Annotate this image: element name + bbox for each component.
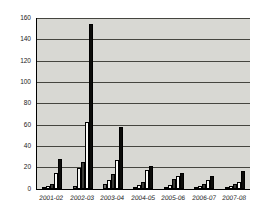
- x-axis-category-label: 2007-08: [219, 194, 250, 201]
- bar-group: [98, 18, 128, 189]
- y-axis-tick-label: 100: [0, 78, 31, 86]
- bar-group: [189, 18, 219, 189]
- bar: [149, 166, 153, 189]
- bar: [89, 24, 93, 189]
- y-axis: 020406080100120140160: [0, 0, 31, 223]
- bar: [210, 176, 214, 189]
- y-axis-tick-label: 80: [0, 99, 31, 107]
- x-axis: 2001-022002-032003-042004-052005-062006-…: [36, 194, 250, 201]
- x-axis-category-label: 2001-02: [36, 194, 67, 201]
- bar: [58, 159, 62, 189]
- x-axis-category-label: 2004-05: [127, 194, 158, 201]
- x-axis-category-label: 2003-04: [97, 194, 128, 201]
- x-axis-category-label: 2006-07: [189, 194, 220, 201]
- y-axis-tick-label: 40: [0, 142, 31, 150]
- y-axis-tick-label: 20: [0, 163, 31, 171]
- bar-group: [220, 18, 250, 189]
- bar-chart: 020406080100120140160 2001-022002-032003…: [0, 0, 274, 223]
- bar-group: [67, 18, 97, 189]
- y-axis-tick-label: 60: [0, 121, 31, 129]
- y-axis-tick-label: 120: [0, 57, 31, 65]
- y-axis-tick-label: 160: [0, 14, 31, 22]
- x-axis-category-label: 2002-03: [66, 194, 97, 201]
- bar: [241, 171, 245, 189]
- bar: [180, 173, 184, 189]
- bar-group: [159, 18, 189, 189]
- y-axis-tick-label: 140: [0, 35, 31, 43]
- bar-group: [128, 18, 158, 189]
- x-axis-category-label: 2005-06: [158, 194, 189, 201]
- y-axis-tick-label: 0: [0, 185, 31, 193]
- bar: [119, 127, 123, 189]
- plot-area: [36, 18, 250, 190]
- bar-group: [37, 18, 67, 189]
- bar-groups: [37, 18, 250, 189]
